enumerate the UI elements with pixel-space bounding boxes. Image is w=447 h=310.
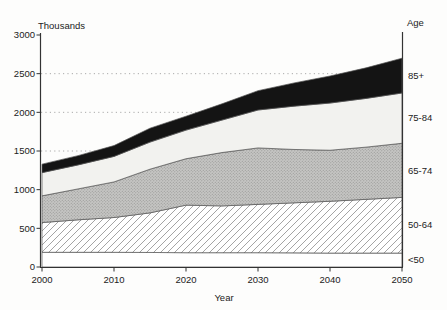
- area-bands-layer: [42, 58, 402, 267]
- band-label-75-84: 75-84: [408, 112, 432, 123]
- population-projection-chart: 0500100015002000250030002000201020202030…: [0, 0, 447, 310]
- y-tick-label: 500: [19, 223, 35, 234]
- y-tick-label: 1500: [14, 145, 35, 156]
- y-tick-label: 1000: [14, 184, 35, 195]
- band-label-85-plus: 85+: [408, 70, 425, 81]
- band-under-50: [42, 252, 402, 267]
- band-label-50-64: 50-64: [408, 219, 432, 230]
- x-tick-label: 2000: [31, 274, 52, 285]
- figure-stacked-area-chart: 0500100015002000250030002000201020202030…: [0, 0, 447, 310]
- x-tick-label: 2010: [103, 274, 124, 285]
- band-label-65-74: 65-74: [408, 165, 432, 176]
- right-axis-title: Age: [407, 17, 424, 28]
- x-tick-label: 2040: [319, 274, 340, 285]
- x-tick-label: 2030: [247, 274, 268, 285]
- y-tick-label: 0: [30, 261, 35, 272]
- x-tick-label: 2020: [175, 274, 196, 285]
- x-axis-title: Year: [214, 292, 233, 303]
- x-tick-label: 2050: [391, 274, 412, 285]
- y-tick-label: 2500: [14, 68, 35, 79]
- left-axis-title: Thousands: [38, 20, 85, 31]
- y-tick-label: 3000: [14, 29, 35, 40]
- band-label-under-50: <50: [408, 254, 424, 265]
- y-tick-label: 2000: [14, 107, 35, 118]
